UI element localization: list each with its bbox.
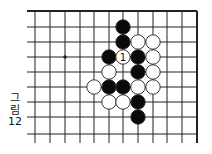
star-point [63, 55, 67, 59]
white-stone: 1 [116, 50, 130, 64]
caption-line-1: 그 [6, 93, 24, 105]
black-stone [116, 35, 130, 49]
white-stone [116, 95, 130, 109]
white-stone [87, 80, 101, 94]
white-stone [146, 80, 160, 94]
figure-caption: 그 림 12 [6, 93, 24, 128]
white-stone [146, 35, 160, 49]
white-stone [146, 50, 160, 64]
black-stone [131, 65, 145, 79]
white-stone [102, 65, 116, 79]
caption-line-3: 12 [6, 116, 24, 128]
black-stone [116, 80, 130, 94]
white-stone [131, 80, 145, 94]
stone-move-label: 1 [120, 52, 126, 63]
star-points [63, 55, 67, 59]
go-board-diagram: 1 [0, 0, 212, 154]
white-stone [131, 35, 145, 49]
black-stone [102, 50, 116, 64]
white-stone [102, 95, 116, 109]
black-stone [116, 20, 130, 34]
black-stone [131, 50, 145, 64]
black-stone [102, 80, 116, 94]
white-stone [146, 65, 160, 79]
black-stone [131, 110, 145, 124]
black-stone [131, 95, 145, 109]
